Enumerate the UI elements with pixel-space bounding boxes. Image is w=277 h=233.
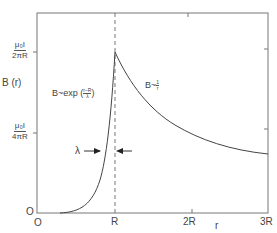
inverse-r-curve bbox=[115, 52, 268, 154]
exp-curve bbox=[60, 52, 115, 213]
y-label-4piR-num: μ₀I bbox=[14, 122, 26, 132]
x-tick-label-3R: 3R bbox=[260, 217, 273, 227]
inv-prefix: B~ bbox=[145, 80, 156, 90]
x-tick-label-2R: 2R bbox=[183, 217, 196, 227]
lambda-arrow-left-head bbox=[94, 148, 101, 154]
exp-den: λ bbox=[86, 94, 89, 99]
inv-fraction: 1r bbox=[156, 80, 159, 91]
x-tick-label-R: R bbox=[111, 217, 118, 227]
y-label-4piR: μ₀I 4πR bbox=[12, 122, 28, 141]
y-axis-label: B (r) bbox=[2, 78, 21, 88]
inverse-annotation: B~1r bbox=[145, 80, 159, 91]
y-label-2piR-den: 2πR bbox=[12, 51, 28, 60]
exp-annotation: B~exp (r−Rλ) bbox=[52, 88, 94, 99]
x-origin-label: O bbox=[34, 218, 42, 228]
lambda-label: λ bbox=[75, 146, 80, 156]
y-label-2piR-num: μ₀I bbox=[14, 41, 26, 51]
exp-prefix: B~exp ( bbox=[52, 88, 83, 98]
plot-canvas bbox=[0, 0, 277, 233]
x-axis-label: r bbox=[215, 221, 218, 231]
y-label-4piR-den: 4πR bbox=[12, 132, 28, 141]
inv-den: r bbox=[157, 86, 159, 91]
plot-frame bbox=[37, 13, 268, 213]
exp-suffix: ) bbox=[91, 88, 94, 98]
y-label-2piR: μ₀I 2πR bbox=[12, 41, 28, 60]
y-origin-label: O bbox=[26, 207, 34, 217]
lambda-arrow-right-head bbox=[116, 148, 123, 154]
